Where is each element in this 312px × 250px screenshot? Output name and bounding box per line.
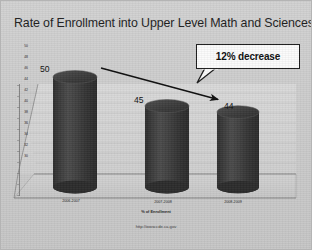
y-tick-2: 46 <box>14 67 28 71</box>
data-label-2008-2009: 44 <box>224 102 234 111</box>
y-axis-tick-labels: 50 48 46 44 42 40 38 36 34 32 30 <box>12 46 28 224</box>
y-tick-7: 36 <box>14 122 28 126</box>
y-tick-8: 34 <box>14 133 28 137</box>
x-axis-title: % of Enrollment <box>0 209 312 214</box>
y-tick-6: 38 <box>14 111 28 115</box>
callout-text: 12% decrease <box>216 51 280 62</box>
y-tick-4: 42 <box>14 89 28 93</box>
page-title: Rate of Enrollment into Upper Level Math… <box>14 16 304 30</box>
bar-cylinder-2007-2008[interactable] <box>145 100 189 194</box>
bar-cylinder-2008-2009[interactable] <box>217 106 259 194</box>
slide-canvas: Rate of Enrollment into Upper Level Math… <box>0 0 312 250</box>
callout-box[interactable]: 12% decrease <box>196 44 300 69</box>
y-tick-0: 50 <box>14 45 28 49</box>
footer-source-url[interactable]: http://www.cde.ca.gov <box>0 224 312 230</box>
y-tick-9: 32 <box>14 144 28 148</box>
y-tick-10: 30 <box>14 155 28 159</box>
y-tick-1: 48 <box>14 56 28 60</box>
y-tick-3: 44 <box>14 78 28 82</box>
data-label-2006-2007: 50 <box>40 65 50 74</box>
bar-cylinder-2006-2007[interactable] <box>53 71 97 194</box>
data-label-2007-2008: 45 <box>134 96 144 105</box>
y-tick-5: 40 <box>14 100 28 104</box>
